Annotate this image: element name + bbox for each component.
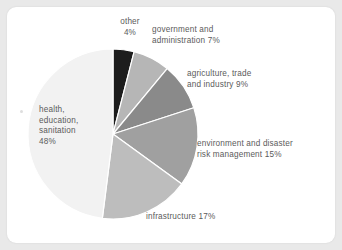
pie-label-infrastructure: infrastructure 17%: [146, 212, 266, 223]
pie-label-environment-and-disaster-risk-management: environment and disaster risk management…: [197, 139, 332, 160]
pie-label-government-and-administration: government and administration 7%: [152, 25, 272, 46]
pie-label-health-education-sanitation: health, education, sanitation 48%: [39, 105, 111, 147]
pie-label-agriculture-trade-and-industry: agriculture, trade and industry 9%: [187, 69, 307, 90]
pie-label-other: other 4%: [104, 17, 156, 38]
pie-chart: other 4% government and administration 7…: [0, 0, 342, 250]
scan-speck: [20, 110, 23, 113]
figure-root: other 4% government and administration 7…: [0, 0, 342, 250]
